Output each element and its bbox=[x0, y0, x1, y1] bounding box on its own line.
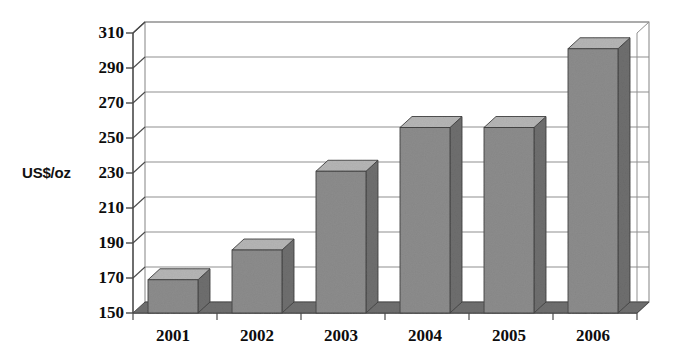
x-tick-label-2005: 2005 bbox=[474, 326, 544, 346]
x-tick-label-2001: 2001 bbox=[138, 326, 208, 346]
y-tick-label: 190 bbox=[78, 233, 124, 253]
y-tick-label: 210 bbox=[78, 198, 124, 218]
y-tick-label: 150 bbox=[78, 303, 124, 323]
y-tick-label: 290 bbox=[78, 58, 124, 78]
x-tick-label-2004: 2004 bbox=[390, 326, 460, 346]
bar-2006 bbox=[568, 38, 630, 313]
y-axis-title: US$/oz bbox=[22, 164, 71, 181]
x-tick-label-2003: 2003 bbox=[306, 326, 376, 346]
y-tick-label: 170 bbox=[78, 268, 124, 288]
bar-chart: 150170190210230250270290310 200120022003… bbox=[0, 0, 683, 361]
y-tick-label: 270 bbox=[78, 93, 124, 113]
bar-2004 bbox=[400, 117, 462, 314]
y-tick-label: 250 bbox=[78, 128, 124, 148]
x-tick-label-2006: 2006 bbox=[558, 326, 628, 346]
bar-2005 bbox=[484, 117, 546, 314]
x-tick-label-2002: 2002 bbox=[222, 326, 292, 346]
bar-2001 bbox=[148, 269, 210, 313]
y-tick-label: 230 bbox=[78, 163, 124, 183]
y-tick-label: 310 bbox=[78, 23, 124, 43]
bar-2002 bbox=[232, 239, 294, 313]
bar-2003 bbox=[316, 160, 378, 313]
